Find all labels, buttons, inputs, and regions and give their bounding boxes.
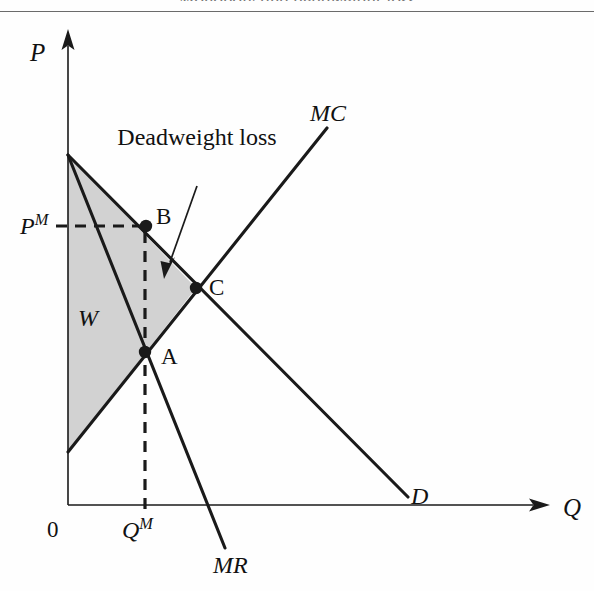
price-monopoly-base: P (20, 213, 35, 239)
marginal-revenue-curve-label: MR (213, 553, 248, 577)
point-marker-b (140, 220, 152, 232)
quantity-axis-label: Q (563, 495, 581, 520)
welfare-region-label: W (78, 306, 98, 330)
point-label-c: C (209, 276, 224, 299)
quantity-monopoly-base: Q (122, 517, 139, 543)
price-monopoly-tick-label: PM (20, 212, 48, 238)
quantity-monopoly-tick-label: QM (122, 516, 153, 542)
monopoly-deadweight-loss-figure: Monopoly and deadweight loss P Q 0 PM (0, 0, 594, 591)
point-marker-a (139, 346, 151, 358)
point-marker-c (190, 282, 202, 294)
deadweight-loss-arrow-shaft (170, 186, 197, 262)
marginal-cost-curve-label: MC (310, 101, 346, 125)
deadweight-loss-annotation-text: Deadweight loss (117, 124, 277, 152)
price-axis-label: P (30, 40, 45, 65)
origin-label: 0 (47, 518, 59, 541)
point-label-a: A (161, 345, 178, 368)
point-label-b: B (156, 205, 171, 228)
quantity-monopoly-superscript: M (139, 514, 153, 533)
diagram-canvas (0, 0, 594, 591)
price-monopoly-superscript: M (35, 210, 49, 229)
demand-curve-label: D (411, 484, 428, 508)
